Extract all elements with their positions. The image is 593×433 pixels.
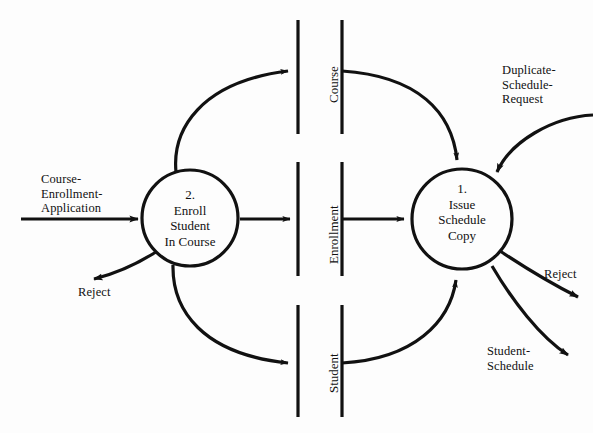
data-store-label-student: Student xyxy=(326,353,342,393)
dfd-canvas: 2. Enroll Student In Course 1. Issue Sch… xyxy=(0,0,593,433)
flow-arrow-duplicate-schedule-request[interactable] xyxy=(497,115,593,172)
flow-label-course-enrollment-application: Course- Enrollment- Application xyxy=(41,172,103,216)
flow-arrow-from-student-store[interactable] xyxy=(342,280,456,363)
flow-label-duplicate-schedule-request: Duplicate- Schedule- Request xyxy=(502,63,556,107)
process-label-enroll-student: 2. Enroll Student In Course xyxy=(143,187,237,249)
flow-label-reject-right: Reject xyxy=(544,267,577,282)
data-store-label-enrollment: Enrollment xyxy=(326,206,342,265)
flow-label-reject-left: Reject xyxy=(78,285,111,300)
process-label-issue-schedule: 1. Issue Schedule Copy xyxy=(414,181,510,243)
data-store-label-course: Course xyxy=(326,66,342,103)
flow-arrow-to-student-store[interactable] xyxy=(173,265,288,363)
flow-label-student-schedule: Student- Schedule xyxy=(487,344,534,373)
flow-arrow-reject-left[interactable] xyxy=(94,252,156,279)
flow-arrow-to-course-store[interactable] xyxy=(176,71,288,172)
flow-arrow-from-course-store[interactable] xyxy=(342,71,457,160)
